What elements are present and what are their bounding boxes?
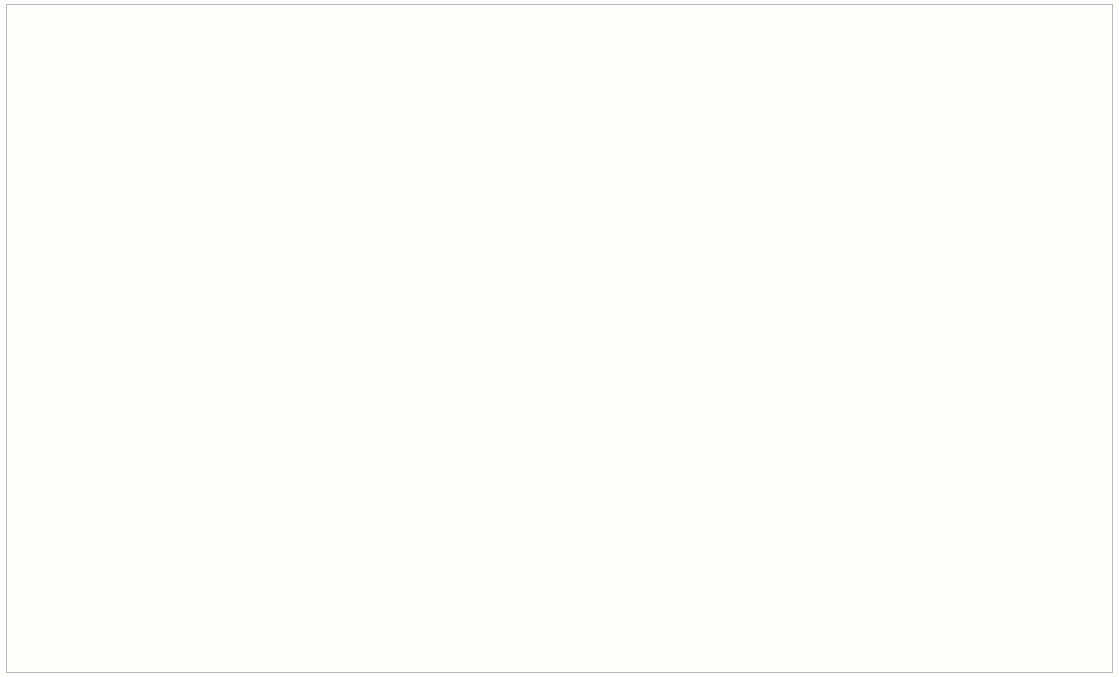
frame-border-top bbox=[6, 4, 1113, 5]
infographic-root bbox=[0, 0, 1119, 677]
frame-border-right bbox=[1112, 4, 1113, 673]
frame-border-left bbox=[6, 4, 7, 673]
frame-border-bottom bbox=[6, 672, 1113, 673]
